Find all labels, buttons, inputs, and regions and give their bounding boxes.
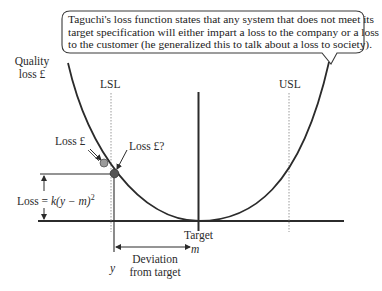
loss-point [100, 159, 108, 167]
y-axis-label-line-1: Quality [12, 55, 52, 68]
target-label: Target [184, 229, 213, 242]
callout-line-1: Taguchi's loss function states that any … [68, 13, 358, 26]
y-axis-label-line-2: loss £ [12, 68, 52, 81]
y-axis-label: Quality loss £ [12, 55, 52, 81]
loss-question-label: Loss £? [129, 140, 164, 153]
callout-line-2: target specification will either impart … [68, 26, 358, 39]
formula-prefix: Loss = [17, 195, 51, 207]
callout-text: Taguchi's loss function states that any … [62, 11, 358, 52]
loss-label: Loss £ [55, 135, 85, 148]
loss-pointer [90, 149, 101, 160]
loss-formula: Loss = k(y − m)2 [17, 191, 96, 208]
target-symbol: m [191, 243, 199, 256]
usl-label: USL [279, 78, 301, 91]
callout-line-3: to the customer (he generalized this to … [68, 38, 358, 51]
deviation-label: Deviation from target [125, 253, 185, 279]
deviation-line-1: Deviation [125, 253, 185, 266]
loss-question-pointer [117, 150, 127, 169]
target-m: m [191, 243, 199, 255]
loss-question-point [110, 169, 119, 178]
formula-body: (y − m) [56, 195, 91, 207]
loss-pointer-2 [88, 150, 99, 161]
deviation-line-2: from target [125, 266, 185, 279]
taguchi-loss-diagram: Taguchi's loss function states that any … [0, 0, 382, 291]
lsl-label: LSL [100, 78, 120, 91]
y-symbol-text: y [110, 262, 115, 274]
formula-exponent: 2 [91, 193, 95, 202]
y-symbol: y [110, 262, 115, 275]
